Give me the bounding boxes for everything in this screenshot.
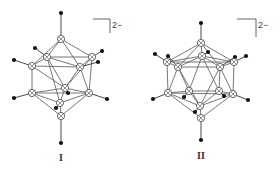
boron-atom	[185, 87, 192, 94]
structure-ii	[151, 21, 250, 142]
b-b-bond	[32, 93, 60, 103]
hydrogen-atom	[244, 54, 248, 58]
boron-atom	[85, 89, 92, 96]
b-b-bond	[167, 62, 168, 93]
hydrogen-atom	[153, 52, 157, 56]
boron-atom	[197, 39, 204, 46]
hydrogen-atom	[105, 97, 109, 101]
hydrogen-atom	[199, 21, 203, 25]
b-b-bond	[178, 43, 201, 67]
boron-atom	[215, 87, 222, 94]
boron-atom	[88, 53, 95, 60]
hydrogen-atom	[33, 46, 37, 50]
hydrogen-atom	[193, 110, 197, 114]
boron-atom	[174, 63, 181, 70]
b-b-bond	[168, 67, 178, 93]
b-b-bond	[32, 88, 65, 93]
hydrogen-atom	[222, 94, 226, 98]
structure-label-i: I	[59, 152, 63, 163]
boron-atom	[28, 62, 35, 69]
b-b-bond	[168, 93, 233, 94]
hydrogen-atom	[59, 141, 63, 145]
hydrogen-atom	[166, 54, 170, 58]
b-b-bond	[61, 93, 89, 116]
b-b-bond	[201, 94, 233, 118]
boron-group	[28, 35, 95, 119]
b-b-bond	[89, 57, 92, 93]
boron-atom	[163, 58, 170, 65]
b-b-bond	[65, 57, 92, 88]
boron-atom	[164, 89, 171, 96]
boron-atom	[76, 63, 83, 70]
b-b-bond	[32, 66, 65, 88]
boron-atom	[57, 112, 64, 119]
structure-label-ii: II	[197, 150, 205, 161]
boron-atom	[196, 102, 203, 109]
hydrogen-group	[12, 11, 109, 145]
hydrogen-atom	[54, 106, 58, 110]
boron-atom	[57, 35, 64, 42]
hydrogen-atom	[96, 60, 100, 64]
charge-bracket-ii: 2−	[237, 19, 268, 37]
hydrogen-atom	[206, 50, 210, 54]
boron-atom	[198, 52, 205, 59]
b-b-bond	[233, 62, 234, 94]
hydrogen-atom	[59, 11, 63, 15]
b-b-bond	[60, 93, 89, 103]
charge-bracket-i: 2−	[93, 19, 122, 33]
hydrogen-atom	[199, 138, 203, 142]
boron-atom	[56, 99, 63, 106]
boron-atom	[230, 58, 237, 65]
cluster-diagram: 2− 2− I II	[0, 0, 280, 173]
boron-atom	[216, 63, 223, 70]
hydrogen-atom	[12, 58, 16, 62]
b-b-bond	[61, 39, 92, 57]
bracket-i	[93, 19, 110, 33]
structure-i	[12, 11, 109, 145]
boron-atom	[197, 114, 204, 121]
hydrogen-atom	[151, 97, 155, 101]
b-b-bond	[80, 67, 89, 93]
boron-atom	[28, 89, 35, 96]
boron-atom	[61, 84, 68, 91]
b-b-bond	[178, 67, 200, 106]
bracket-ii	[237, 19, 256, 37]
charge-label-ii: 2−	[258, 20, 268, 30]
boron-atom	[43, 53, 50, 60]
hydrogen-atom	[12, 96, 16, 100]
b-b-bond	[61, 39, 80, 67]
boron-atom	[229, 90, 236, 97]
hydrogen-atom	[100, 49, 104, 53]
b-b-bond	[32, 66, 80, 67]
b-b-bond	[32, 39, 61, 66]
hydrogen-atom	[246, 98, 250, 102]
hydrogen-atom	[182, 95, 186, 99]
charge-label-i: 2−	[112, 20, 122, 30]
